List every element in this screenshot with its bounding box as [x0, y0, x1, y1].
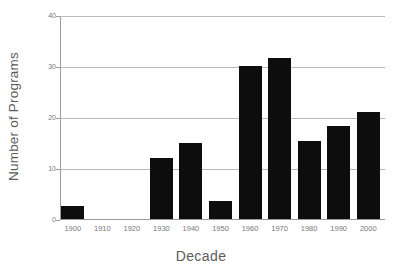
- x-tick-label-2000: 2000: [351, 224, 385, 234]
- bar-1930: [150, 158, 173, 219]
- bar-1980: [298, 141, 321, 219]
- bar-1900: [61, 206, 84, 219]
- y-axis-title-text: Number of Programs: [6, 52, 21, 181]
- y-tick-label-20: 20: [38, 114, 56, 122]
- y-tick-label-10: 10: [38, 165, 56, 173]
- y-tick-mark-40: [56, 16, 60, 17]
- bar-1970: [268, 58, 291, 219]
- bar-1950: [209, 201, 232, 219]
- y-tick-label-40: 40: [38, 12, 56, 20]
- y-tick-mark-10: [56, 169, 60, 170]
- y-tick-label-0: 0: [38, 216, 56, 224]
- plot-area: [60, 16, 385, 220]
- gridline-y-30: [60, 67, 385, 68]
- bar-1960: [239, 66, 262, 219]
- y-tick-mark-0: [56, 220, 60, 221]
- x-axis-title: Decade: [0, 248, 402, 264]
- y-axis-tick-labels: 010203040: [38, 16, 56, 220]
- y-axis-title: Number of Programs: [0, 0, 26, 232]
- bar-chart-figure: Number of Programs 010203040 19001910192…: [0, 0, 402, 277]
- gridline-y-20: [60, 118, 385, 119]
- x-axis-line: [60, 219, 385, 220]
- y-tick-label-30: 30: [38, 63, 56, 71]
- bar-1990: [327, 126, 350, 219]
- bar-2000: [357, 112, 380, 219]
- y-tick-mark-30: [56, 67, 60, 68]
- bar-1940: [179, 143, 202, 220]
- y-tick-mark-20: [56, 118, 60, 119]
- gridline-y-40: [60, 16, 385, 17]
- x-axis-tick-labels: 1900191019201930194019501960197019801990…: [60, 224, 385, 238]
